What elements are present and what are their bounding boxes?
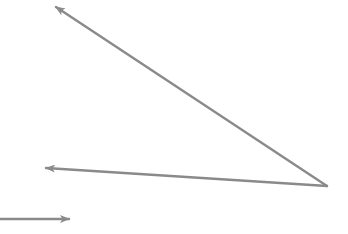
arrow-middle-left	[46, 168, 327, 186]
arrow-upper-left	[56, 7, 327, 186]
diagram-canvas	[0, 0, 348, 234]
